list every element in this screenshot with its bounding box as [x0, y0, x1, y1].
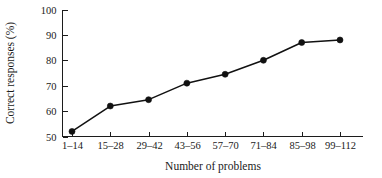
- y-tick-label: 80: [46, 55, 57, 66]
- y-tick-label: 90: [46, 30, 57, 41]
- data-point-marker: [222, 71, 228, 77]
- line-chart: 5060708090100 1–1415–2829–4243–5657–7071…: [0, 0, 382, 178]
- y-tick-label: 100: [41, 5, 57, 16]
- data-point-marker: [299, 40, 305, 46]
- data-point-marker: [184, 80, 190, 86]
- x-tick-label: 85–98: [289, 140, 315, 151]
- y-axis-title: Correct responses (%): [4, 22, 17, 124]
- x-tick-label: 43–56: [174, 140, 200, 151]
- data-point-marker: [107, 103, 113, 109]
- y-axis-ticks: [63, 11, 68, 138]
- x-tick-label: 71–84: [250, 140, 277, 151]
- x-tick-label: 57–70: [212, 140, 238, 151]
- y-tick-label: 60: [46, 106, 57, 117]
- x-axis-title: Number of problems: [165, 160, 261, 173]
- data-point-marker: [69, 128, 75, 134]
- y-axis: 5060708090100: [41, 5, 68, 143]
- data-point-marker: [146, 97, 152, 103]
- data-series: [69, 37, 343, 134]
- x-axis-tick-labels: 1–1415–2829–4243–5657–7071–8485–9899–112: [62, 140, 356, 151]
- x-tick-label: 15–28: [97, 140, 123, 151]
- data-point-marker: [260, 57, 266, 63]
- y-tick-label: 70: [46, 81, 57, 92]
- series-markers: [69, 37, 343, 134]
- x-tick-label: 99–112: [325, 140, 356, 151]
- x-tick-label: 1–14: [62, 140, 84, 151]
- x-axis-ticks: [73, 132, 341, 137]
- y-tick-label: 50: [46, 132, 57, 143]
- series-line-correct-responses: [72, 40, 340, 131]
- chart-figure: 5060708090100 1–1415–2829–4243–5657–7071…: [0, 0, 382, 178]
- x-tick-label: 29–42: [136, 140, 162, 151]
- y-axis-tick-labels: 5060708090100: [41, 5, 57, 143]
- x-axis: 1–1415–2829–4243–5657–7071–8485–9899–112: [62, 132, 363, 151]
- data-point-marker: [337, 37, 343, 43]
